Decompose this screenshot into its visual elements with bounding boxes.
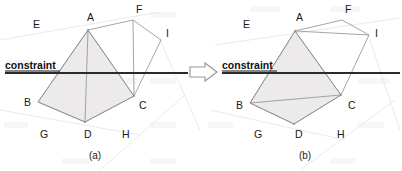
edge-b-A-I <box>295 31 369 35</box>
edge-a-F-I <box>133 20 161 40</box>
panel-b-vertex-label-B: B <box>236 99 243 111</box>
edge-b-I-C <box>341 35 369 95</box>
panel-a-vertex-label-E: E <box>33 18 40 30</box>
panel-a-vertex-label-H: H <box>122 128 130 140</box>
panel-b-caption: (b) <box>299 150 311 161</box>
figure-svg: constraint E A F I B C G D H (a) <box>0 0 402 171</box>
panel-b-vertex-label-D: D <box>295 128 303 140</box>
panel-b-vertex-label-C: C <box>348 99 356 111</box>
panel-a-vertex-label-D: D <box>84 128 92 140</box>
transition-arrow-icon <box>190 63 217 81</box>
panel-b-shaded-polygon <box>250 31 341 124</box>
panel-b-vertex-label-G: G <box>254 128 262 140</box>
edge-a-A-F <box>88 20 133 30</box>
panel-b-vertex-label-F: F <box>345 3 351 15</box>
panel-b-vertex-label-A: A <box>296 11 303 23</box>
panel-a-vertex-label-A: A <box>87 11 94 23</box>
panel-a-vertex-label-B: B <box>24 96 31 108</box>
figure-root: constraint E A F I B C G D H (a) <box>0 0 402 171</box>
panel-b-vertex-label-H: H <box>337 128 345 140</box>
panel-b-vertex-label-I: I <box>375 27 378 39</box>
panel-a-caption: (a) <box>89 150 101 161</box>
edge-a-F-C <box>133 20 134 96</box>
panel-a-vertex-label-C: C <box>139 99 147 111</box>
panel-a-vertex-label-I: I <box>166 27 169 39</box>
panel-b-vertex-label-E: E <box>243 18 250 30</box>
edge-b-F-I <box>342 20 369 35</box>
panel-a-vertex-label-F: F <box>136 3 142 15</box>
edge-a-I-C <box>134 40 161 96</box>
panel-b-constraint-label: constraint <box>222 59 273 71</box>
panel-a-vertex-label-G: G <box>40 128 48 140</box>
panel-a-constraint-label: constraint <box>5 59 56 71</box>
